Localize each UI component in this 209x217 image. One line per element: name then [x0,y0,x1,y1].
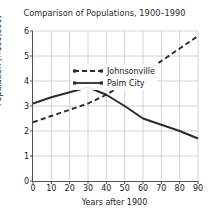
x-tick-10: 10 [46,184,56,193]
x-tick-30: 30 [83,184,93,193]
chart-figure: Comparison of Populations, 1900–1990 012… [0,0,209,217]
x-tick-70: 70 [156,184,166,193]
chart-title: Comparison of Populations, 1900–1990 [0,8,209,18]
y-tick-0: 0 [24,177,29,186]
x-tick-60: 60 [138,184,148,193]
x-axis-title: Years after 1900 [32,198,197,207]
legend-label-johnsonville: Johnsonville [107,67,155,76]
legend-item-johnsonville: Johnsonville [73,65,155,77]
y-tick-4: 4 [24,77,29,86]
y-tick-2: 2 [24,127,29,136]
dashed-line-icon [73,66,103,76]
solid-line-icon [73,78,103,88]
x-tick-20: 20 [65,184,75,193]
plot-area: 0123456 0102030405060708090 Johnsonville… [32,31,198,182]
x-tick-50: 50 [120,184,130,193]
chart-legend: Johnsonville Palm City [71,64,157,90]
x-tick-0: 0 [30,184,35,193]
y-tick-5: 5 [24,52,29,61]
x-tick-80: 80 [175,184,185,193]
y-axis-title: Population (×100,000) [0,15,3,106]
y-tick-6: 6 [24,27,29,36]
y-tick-1: 1 [24,152,29,161]
legend-item-palm-city: Palm City [73,77,155,89]
legend-label-palm-city: Palm City [107,79,145,88]
x-tick-40: 40 [101,184,111,193]
x-tick-90: 90 [193,184,203,193]
data-series-layer [33,31,198,181]
y-tick-3: 3 [24,102,29,111]
